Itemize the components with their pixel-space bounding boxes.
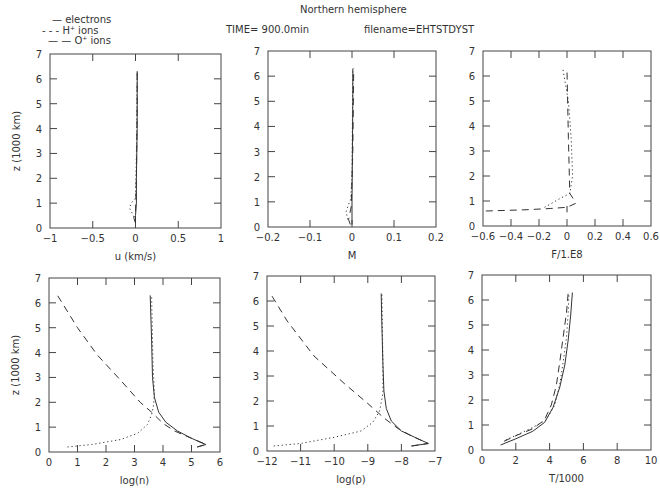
x-tick-label: 0	[46, 457, 52, 468]
y-tick-label: 4	[469, 121, 475, 132]
x-tick-label: 6	[217, 457, 223, 468]
x-tick-label: 6	[580, 455, 586, 466]
y-tick-label: 6	[35, 298, 41, 309]
x-tick-label: 0.5	[170, 233, 186, 244]
y-tick-label: 2	[468, 395, 474, 406]
y-tick-label: 4	[253, 346, 259, 357]
x-tick-label: 3	[131, 457, 137, 468]
x-tick-label: 8	[614, 455, 620, 466]
chart-panel-velocity: −1−0.500.5101234567u (km/s)z (1000 km)	[11, 49, 224, 262]
y-tick-label: 3	[469, 146, 475, 157]
y-tick-label: 2	[469, 171, 475, 182]
y-tick-label: 7	[469, 46, 475, 57]
x-tick-label: −0.5	[81, 233, 105, 244]
y-axis-label: z (1000 km)	[11, 111, 22, 171]
x-axis-label: M	[348, 250, 357, 261]
x-tick-label: 0.2	[587, 231, 603, 242]
y-axis-label: z (1000 km)	[10, 335, 21, 395]
y-tick-label: 4	[35, 348, 41, 359]
x-tick-label: 0.4	[615, 231, 631, 242]
x-tick-label: 4	[160, 457, 166, 468]
y-tick-label: 3	[35, 372, 41, 383]
y-tick-label: 3	[253, 371, 259, 382]
series-o-ions	[270, 294, 428, 447]
y-tick-label: 7	[254, 46, 260, 57]
x-axis-label: T/1000	[548, 473, 584, 484]
y-tick-label: 7	[36, 49, 42, 60]
y-tick-label: 3	[36, 148, 42, 159]
series-o-ions	[486, 71, 576, 211]
x-tick-label: 0	[349, 232, 355, 243]
y-tick-label: 6	[468, 295, 474, 306]
x-tick-label: −12	[256, 456, 277, 467]
x-tick-label: −10	[324, 456, 345, 467]
chart-panel-temperature: 024681001234567T/1000	[468, 270, 658, 484]
y-tick-label: 3	[468, 370, 474, 381]
y-tick-label: 1	[35, 422, 41, 433]
y-tick-label: 0	[468, 445, 474, 456]
chart-panel-flux: −0.6−0.4−0.200.20.40.601234567F/1.E8	[469, 46, 659, 260]
x-tick-label: 2	[103, 457, 109, 468]
y-tick-label: 0	[253, 446, 259, 457]
y-tick-label: 2	[254, 172, 260, 183]
y-tick-label: 1	[253, 421, 259, 432]
x-tick-label: 0	[564, 231, 570, 242]
plot-frame	[49, 278, 220, 452]
series-electrons	[501, 293, 573, 446]
y-tick-label: 2	[253, 396, 259, 407]
series-o-ions	[58, 295, 206, 447]
filename-label: filename=EHTSTDYST	[364, 24, 474, 35]
series-h-ions	[274, 294, 383, 447]
legend-item-o-ions: — — O+ ions	[48, 34, 111, 46]
x-axis-label: F/1.E8	[551, 249, 582, 260]
x-tick-label: −7	[428, 456, 443, 467]
y-tick-label: 3	[254, 147, 260, 158]
series-o-ions	[504, 293, 568, 442]
chart-panel-pressure: −12−11−10−9−8−701234567log(p)	[253, 271, 443, 485]
y-tick-label: 6	[254, 71, 260, 82]
figure-canvas: −1−0.500.5101234567u (km/s)z (1000 km)−0…	[0, 0, 660, 494]
legend-suffix: ions	[87, 35, 111, 46]
time-label: TIME= 900.0min	[226, 24, 309, 35]
x-tick-label: 0.1	[386, 232, 402, 243]
x-tick-label: −0.4	[499, 231, 523, 242]
x-tick-label: 1	[74, 457, 80, 468]
y-tick-label: 2	[35, 397, 41, 408]
x-tick-label: 10	[645, 455, 658, 466]
x-tick-label: −11	[290, 456, 311, 467]
x-tick-label: 0	[132, 233, 138, 244]
y-tick-label: 0	[469, 221, 475, 232]
y-tick-label: 7	[35, 273, 41, 284]
plot-frame	[50, 54, 221, 228]
x-tick-label: −1	[43, 233, 58, 244]
y-tick-label: 4	[36, 124, 42, 135]
x-tick-label: 0	[479, 455, 485, 466]
y-tick-label: 6	[36, 74, 42, 85]
x-tick-label: 0.6	[643, 231, 659, 242]
y-tick-label: 5	[253, 321, 259, 332]
plot-frame	[482, 275, 651, 450]
x-tick-label: −9	[360, 456, 375, 467]
y-tick-label: 1	[469, 196, 475, 207]
y-tick-label: 5	[35, 323, 41, 334]
y-tick-label: 5	[469, 96, 475, 107]
y-tick-label: 1	[254, 197, 260, 208]
y-tick-label: 4	[254, 121, 260, 132]
x-tick-label: 4	[546, 455, 552, 466]
y-tick-label: 7	[253, 271, 259, 282]
y-tick-label: 5	[254, 96, 260, 107]
y-tick-label: 6	[469, 71, 475, 82]
x-tick-label: −8	[394, 456, 409, 467]
series-electrons	[150, 295, 206, 447]
y-tick-label: 2	[36, 173, 42, 184]
y-tick-label: 5	[36, 99, 42, 110]
series-electrons	[381, 294, 428, 447]
y-tick-label: 4	[468, 345, 474, 356]
y-tick-label: 0	[36, 223, 42, 234]
plot-frame	[267, 276, 435, 451]
x-tick-label: 0.2	[428, 232, 444, 243]
y-tick-label: 5	[468, 320, 474, 331]
legend-marker-dashed: — —	[48, 35, 71, 46]
y-tick-label: 7	[468, 270, 474, 281]
x-tick-label: 5	[188, 457, 194, 468]
